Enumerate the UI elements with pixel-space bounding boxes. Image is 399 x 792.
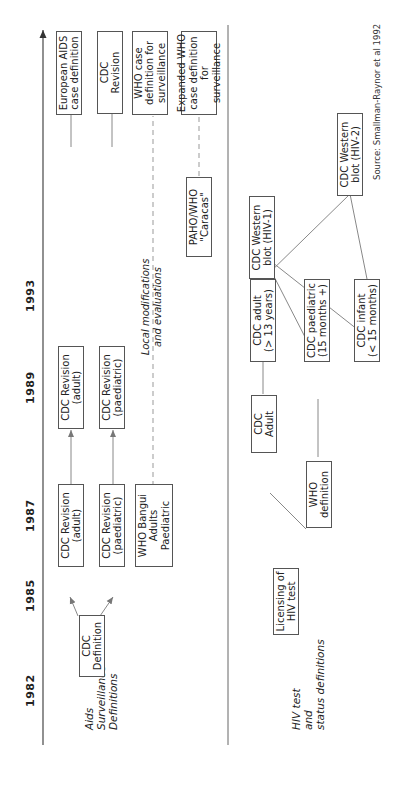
- box-cdc-revision-paed-1987: CDC Revision (paediatric): [99, 484, 125, 567]
- box-expanded-who: Expanded WHO case definition for surveil…: [181, 31, 217, 115]
- box-who-case-definition: WHO case definition for surveillance: [132, 31, 168, 115]
- year-1985: 1985: [24, 579, 37, 612]
- box-cdc-infant: CDC infant (< 15 months): [354, 279, 380, 362]
- hiv-test-label: HIV test and status definitions: [290, 639, 326, 730]
- local-modifications-note: Local modifications and evaluations: [140, 252, 164, 362]
- box-who-definition: WHO definition: [306, 461, 332, 528]
- box-cdc-revision-1993: CDC Revision: [97, 31, 123, 114]
- box-european-aids: European AIDS case definition: [56, 31, 82, 115]
- year-1989: 1989: [24, 371, 37, 404]
- year-1982: 1982: [24, 674, 37, 707]
- year-1993: 1993: [24, 279, 37, 312]
- box-who-bangui: WHO Bangui Adults Paediatric: [135, 484, 173, 567]
- box-cdc-adult-13-years: CDC adult (> 13 years): [250, 279, 276, 362]
- box-cdc-revision-adult-1987: CDC Revision (adult): [58, 484, 84, 567]
- box-western-blot-hiv1: CDC Western blot (HIV-1): [249, 196, 275, 279]
- box-licensing-hiv-test: Licensing of HIV test: [273, 568, 299, 635]
- box-cdc-revision-paed-1989: CDC Revision (paediatric): [99, 346, 125, 429]
- box-western-blot-hiv2: CDC Western blot (HIV-2): [337, 113, 363, 196]
- diagram-canvas: 1982 1985 1987 1989 1993 Aids Surveillan…: [0, 0, 399, 792]
- box-cdc-revision-adult-1989: CDC Revision (adult): [58, 346, 84, 429]
- box-cdc-adult: CDC Adult: [251, 395, 277, 453]
- year-1987: 1987: [24, 499, 37, 532]
- source-text: Source: Smallman-Raynor et al 1992: [372, 24, 382, 180]
- box-paho-who-caracas: PAHO/WHO "Caracas": [186, 177, 212, 257]
- box-cdc-paediatric-15-months: CDC paediatric (15 months +): [304, 279, 330, 362]
- box-cdc-definition: CDC Definition: [79, 615, 105, 677]
